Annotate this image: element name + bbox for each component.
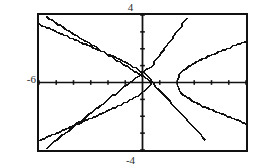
series-sideways-parabola-lower [177,82,246,124]
plot-canvas [39,15,246,150]
graphing-calculator-screenshot: 4 -6 6 -4 [0,0,261,168]
series-sideways-parabola-left-upper [39,24,152,82]
series-line-falling [46,16,205,140]
series-sideways-parabola-left-lower [39,82,152,140]
series-sideways-parabola-upper [177,41,246,82]
axis-label-x-min: -6 [4,74,36,85]
axis-label-y-max: 4 [0,2,261,13]
axis-label-y-min: -4 [0,155,261,166]
plot-frame [37,13,248,152]
